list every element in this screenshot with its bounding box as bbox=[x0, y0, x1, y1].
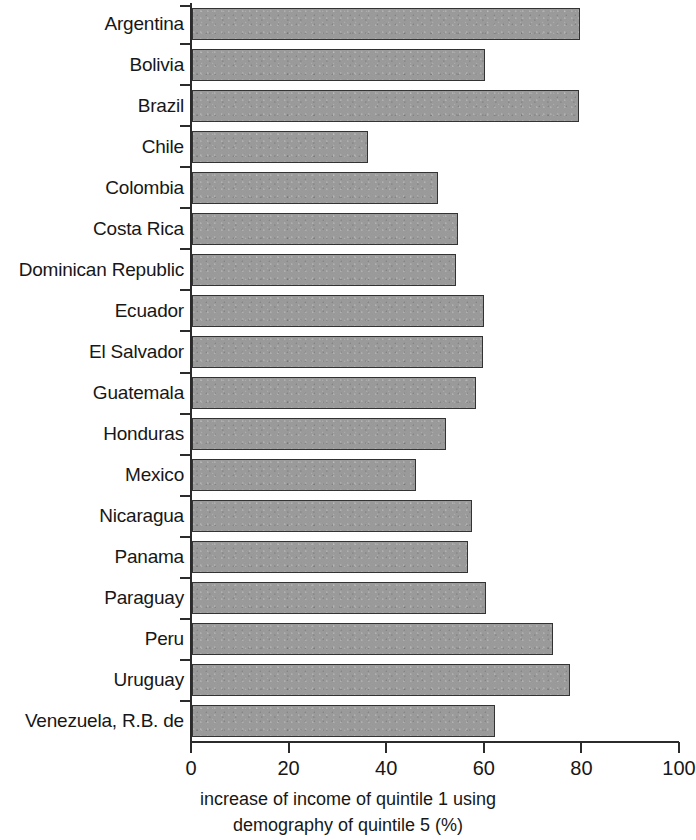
bar-row: Panama bbox=[0, 537, 696, 578]
y-axis-tick bbox=[180, 248, 191, 250]
bar-row: Chile bbox=[0, 126, 696, 167]
bar bbox=[192, 131, 368, 163]
y-axis-tick bbox=[180, 454, 191, 456]
plot-area: ArgentinaBoliviaBrazilChileColombiaCosta… bbox=[0, 0, 696, 760]
y-axis-tick bbox=[180, 289, 191, 291]
bar-row: Venezuela, R.B. de bbox=[0, 701, 696, 742]
category-label: Mexico bbox=[125, 464, 184, 486]
x-axis-title: increase of income of quintile 1 using d… bbox=[0, 786, 696, 838]
category-label: Nicaragua bbox=[99, 505, 184, 527]
x-axis-tick-label: 80 bbox=[570, 757, 592, 780]
y-axis-tick bbox=[180, 43, 191, 45]
x-axis-tick-label: 20 bbox=[277, 757, 299, 780]
category-label: Costa Rica bbox=[93, 218, 184, 240]
x-axis-tick bbox=[483, 742, 485, 753]
category-label: El Salvador bbox=[89, 341, 184, 363]
x-axis-tick bbox=[385, 742, 387, 753]
bar-row: Nicaragua bbox=[0, 496, 696, 537]
bar bbox=[192, 418, 446, 450]
x-axis-title-line-1: increase of income of quintile 1 using bbox=[0, 786, 696, 812]
bar-row: El Salvador bbox=[0, 331, 696, 372]
x-axis-title-line-2: demography of quintile 5 (%) bbox=[0, 812, 696, 838]
bar-row: Honduras bbox=[0, 414, 696, 455]
bar-row: Peru bbox=[0, 619, 696, 660]
category-label: Colombia bbox=[105, 177, 184, 199]
bar bbox=[192, 8, 580, 40]
horizontal-bar-chart: ArgentinaBoliviaBrazilChileColombiaCosta… bbox=[0, 0, 696, 840]
bar bbox=[192, 336, 483, 368]
x-axis-tick-label: 100 bbox=[662, 757, 695, 780]
category-label: Ecuador bbox=[115, 300, 184, 322]
bar bbox=[192, 500, 472, 532]
category-label: Argentina bbox=[104, 13, 184, 35]
category-label: Brazil bbox=[138, 95, 184, 117]
category-label: Guatemala bbox=[93, 382, 184, 404]
y-axis-tick bbox=[180, 207, 191, 209]
bar bbox=[192, 377, 476, 409]
bar-row: Costa Rica bbox=[0, 208, 696, 249]
y-axis-tick bbox=[180, 618, 191, 620]
x-axis-tick bbox=[678, 742, 680, 753]
bar-rows: ArgentinaBoliviaBrazilChileColombiaCosta… bbox=[0, 3, 696, 742]
y-axis-tick bbox=[180, 5, 191, 7]
y-axis-tick bbox=[180, 125, 191, 127]
bar bbox=[192, 541, 468, 573]
category-label: Uruguay bbox=[114, 669, 184, 691]
x-axis-tick bbox=[580, 742, 582, 753]
y-axis-tick bbox=[180, 659, 191, 661]
bar-row: Bolivia bbox=[0, 44, 696, 85]
y-axis-tick bbox=[180, 536, 191, 538]
bar bbox=[192, 172, 438, 204]
bar-row: Ecuador bbox=[0, 290, 696, 331]
bar bbox=[192, 254, 456, 286]
bar-row: Guatemala bbox=[0, 373, 696, 414]
bar bbox=[192, 623, 553, 655]
bar bbox=[192, 295, 484, 327]
x-axis-tick bbox=[288, 742, 290, 753]
bar-row: Colombia bbox=[0, 167, 696, 208]
y-axis-tick bbox=[180, 700, 191, 702]
bar bbox=[192, 705, 495, 737]
x-axis-tick-label: 40 bbox=[375, 757, 397, 780]
y-axis-tick bbox=[180, 166, 191, 168]
bar-row: Uruguay bbox=[0, 660, 696, 701]
bar bbox=[192, 582, 486, 614]
bar bbox=[192, 664, 570, 696]
bar bbox=[192, 49, 485, 81]
category-label: Dominican Republic bbox=[19, 259, 184, 281]
category-label: Panama bbox=[114, 546, 184, 568]
category-label: Chile bbox=[142, 136, 184, 158]
y-axis-tick bbox=[180, 577, 191, 579]
y-axis-tick bbox=[180, 495, 191, 497]
y-axis-tick bbox=[180, 413, 191, 415]
category-label: Venezuela, R.B. de bbox=[25, 710, 184, 732]
y-axis-tick bbox=[180, 330, 191, 332]
x-axis-tick-label: 60 bbox=[473, 757, 495, 780]
bar-row: Mexico bbox=[0, 455, 696, 496]
bar bbox=[192, 90, 579, 122]
x-axis-tick-label: 0 bbox=[185, 757, 196, 780]
category-label: Peru bbox=[145, 628, 184, 650]
category-label: Bolivia bbox=[129, 54, 184, 76]
bar bbox=[192, 213, 458, 245]
bar-row: Paraguay bbox=[0, 578, 696, 619]
bar-row: Argentina bbox=[0, 3, 696, 44]
category-label: Honduras bbox=[103, 423, 184, 445]
bar-row: Brazil bbox=[0, 85, 696, 126]
bar-row: Dominican Republic bbox=[0, 249, 696, 290]
x-axis-tick bbox=[190, 742, 192, 753]
category-label: Paraguay bbox=[104, 587, 184, 609]
bar bbox=[192, 459, 416, 491]
y-axis-tick bbox=[180, 372, 191, 374]
y-axis-tick bbox=[180, 84, 191, 86]
